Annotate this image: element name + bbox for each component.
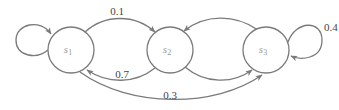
edge-s3-s2 [184,18,258,31]
edge-label-s2-s1: 0.7 [115,68,129,80]
edge-label-s1-s3: 0.3 [163,89,177,101]
edge-label-s3-s3: 0.4 [324,21,338,33]
edge-s1-s1-self-loop [16,25,51,56]
node-s2: s2 [147,27,193,73]
edge-s3-s3-self-loop [288,25,322,58]
edge-s1-s2 [85,19,155,33]
node-s1: s1 [48,27,94,73]
node-s3: s3 [243,27,289,73]
markov-chain-diagram: 0.1 0.7 0.3 0.4 s1 s2 s3 [0,0,339,110]
edge-label-s1-s2: 0.1 [110,5,124,17]
edge-s2-s3 [185,67,252,80]
